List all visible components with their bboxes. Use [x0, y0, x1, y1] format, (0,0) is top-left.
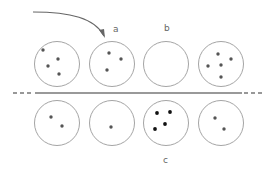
dot [57, 72, 60, 75]
dot [219, 63, 222, 66]
bottom-row-circles [35, 101, 244, 146]
circle-outline [90, 42, 135, 87]
dot [119, 57, 122, 60]
dot [109, 125, 112, 128]
dot [56, 57, 59, 60]
dot [168, 110, 172, 114]
label-b: b [164, 24, 170, 33]
dot [155, 111, 159, 115]
label-c: c [163, 156, 168, 165]
circle-outline [35, 101, 80, 146]
dot [206, 64, 209, 67]
dot [153, 127, 157, 131]
circle-outline [90, 101, 135, 146]
circle-outline [199, 101, 244, 146]
circle-outline [35, 42, 80, 87]
circle-top-4 [199, 42, 244, 87]
curved-arrow-icon [33, 12, 105, 38]
dot [46, 64, 49, 67]
dot [163, 122, 167, 126]
dot [105, 68, 108, 71]
arrow-head-icon [99, 29, 105, 38]
circle-top-2 [90, 42, 135, 87]
dot [60, 124, 63, 127]
circle-top-3 [144, 42, 189, 87]
dot [216, 52, 219, 55]
dot [213, 116, 216, 119]
circle-bottom-1 [35, 101, 80, 146]
circle-outline [144, 42, 189, 87]
circle-top-1 [35, 42, 80, 87]
circle-bottom-2 [90, 101, 135, 146]
circle-bottom-4 [199, 101, 244, 146]
label-a: a [113, 25, 119, 34]
top-row-circles [35, 42, 244, 87]
circle-bottom-3 [144, 101, 189, 146]
dot [49, 115, 52, 118]
arrow-shaft [33, 12, 104, 36]
dot [229, 57, 232, 60]
diagram-canvas [0, 0, 271, 176]
dot [107, 51, 110, 54]
dot [222, 127, 225, 130]
dot [41, 48, 44, 51]
dot [219, 75, 222, 78]
